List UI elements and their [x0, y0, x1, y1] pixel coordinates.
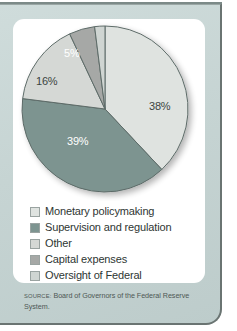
legend-swatch-icon	[30, 271, 40, 281]
legend-label: Capital expenses	[45, 253, 127, 266]
figure-panel: 38% 39% 16% 5% 2% Monetary policymaking …	[0, 0, 237, 331]
legend-label: Monetary policymaking	[45, 205, 154, 218]
pie-chart-svg	[13, 19, 205, 201]
legend-swatch-icon	[30, 255, 40, 265]
pie-label-other: 16%	[36, 75, 57, 87]
panel-top-rule	[0, 2, 222, 4]
source-label: SOURCE:	[24, 293, 51, 299]
source-note: SOURCE: Board of Governors of the Federa…	[24, 291, 196, 311]
legend-label-line1: Oversight of Federal	[45, 269, 142, 281]
chart-card: 38% 39% 16% 5% 2% Monetary policymaking …	[13, 19, 205, 283]
legend-item-oversight-of-federal-reserve-banks[interactable]: Oversight of FederalReserve banks	[30, 269, 205, 283]
legend-label: Oversight of FederalReserve banks	[45, 269, 142, 283]
pie-label-supervision: 39%	[67, 135, 88, 147]
legend-label: Supervision and regulation	[45, 221, 171, 234]
legend-swatch-icon	[30, 223, 40, 233]
pie-chart: 38% 39% 16% 5% 2%	[13, 19, 205, 201]
legend-swatch-icon	[30, 207, 40, 217]
chart-legend: Monetary policymaking Supervision and re…	[30, 205, 205, 283]
legend-item-supervision-and-regulation[interactable]: Supervision and regulation	[30, 221, 205, 236]
pie-label-monetary: 38%	[149, 100, 170, 112]
legend-item-other[interactable]: Other	[30, 237, 205, 252]
pie-label-capital: 5%	[64, 47, 80, 59]
legend-label: Other	[45, 237, 72, 250]
legend-label-line2: Reserve banks	[45, 282, 142, 283]
legend-item-capital-expenses[interactable]: Capital expenses	[30, 253, 205, 268]
legend-item-monetary-policymaking[interactable]: Monetary policymaking	[30, 205, 205, 220]
legend-swatch-icon	[30, 239, 40, 249]
